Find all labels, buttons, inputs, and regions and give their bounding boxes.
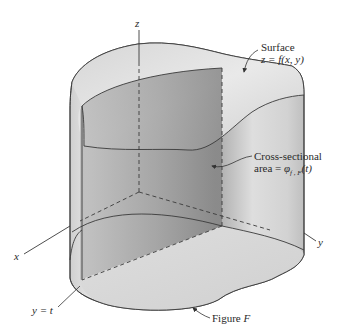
- cross-section-arg: (t): [302, 162, 312, 174]
- cross-section-label: Cross-sectional area = φf , F(t): [254, 150, 322, 179]
- y-axis-label: y: [318, 236, 323, 248]
- plane-label: y = t: [32, 304, 53, 316]
- surface-label: Surface z = f(x, y): [261, 41, 304, 65]
- cross-section-label-line2: area = φf , F(t): [254, 162, 322, 179]
- plane-leader: [58, 286, 80, 307]
- figure-label-name: F: [243, 312, 250, 324]
- x-axis-label: x: [14, 250, 19, 262]
- figure-leader: [193, 308, 210, 318]
- y-axis: [304, 233, 316, 241]
- surface-label-line2: z = f(x, y): [261, 53, 304, 65]
- surface-label-line1: Surface: [261, 41, 304, 53]
- cross-section-label-line1: Cross-sectional: [254, 150, 322, 162]
- z-axis-label: z: [135, 17, 139, 29]
- figure-label: Figure F: [212, 312, 250, 324]
- cross-section-subscript: f , F: [290, 169, 301, 177]
- figure-label-prefix: Figure: [212, 312, 243, 324]
- cross-section-prefix: area =: [254, 162, 284, 174]
- x-axis: [24, 226, 70, 254]
